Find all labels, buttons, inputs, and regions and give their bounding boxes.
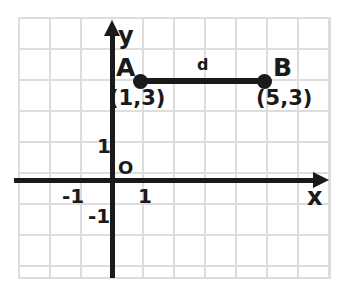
- origin-label: O: [118, 159, 133, 177]
- y-axis-tick-label-neg1: -1: [88, 206, 110, 226]
- distance-label: d: [197, 57, 208, 73]
- point-b-label: B: [273, 55, 292, 80]
- y-axis-label: y: [118, 24, 134, 48]
- x-axis-label: x: [307, 185, 322, 209]
- y-axis-tick-label-1: 1: [97, 136, 111, 156]
- segment-ab: [140, 78, 265, 84]
- grid-right-edge: [329, 17, 331, 278]
- x-axis-line: [14, 178, 319, 183]
- coordinate-plane-figure: A B d (1,3) (5,3) x y O 1 -1 1 -1: [0, 0, 347, 295]
- point-a-label: A: [116, 55, 135, 80]
- x-axis-tick-label-1: 1: [138, 186, 152, 206]
- point-b-coordinates: (5,3): [256, 88, 312, 109]
- grid-bottom-edge: [18, 277, 331, 279]
- x-axis-tick-label-neg1: -1: [62, 186, 84, 206]
- point-a-coordinates: (1,3): [109, 88, 165, 109]
